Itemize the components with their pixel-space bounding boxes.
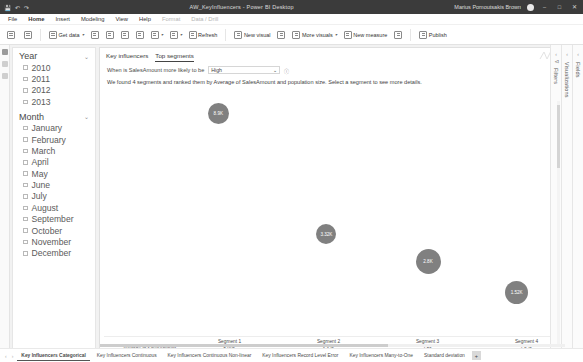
menu-item-format[interactable]: Format bbox=[162, 16, 180, 22]
page-tab-key-influencers-continuous[interactable]: Key Influencers Continuous bbox=[93, 351, 161, 361]
slicer-item-february[interactable]: February bbox=[19, 134, 91, 145]
get-data-button[interactable]: Get data▾ bbox=[48, 31, 85, 39]
checkbox-icon[interactable] bbox=[23, 100, 28, 105]
more-visuals-button[interactable]: More visuals▾ bbox=[291, 31, 337, 39]
slicer-item-december[interactable]: December bbox=[19, 248, 91, 259]
checkbox-icon[interactable] bbox=[23, 171, 28, 176]
chevron-down-icon: ⌄ bbox=[273, 67, 277, 73]
slicer-item-september[interactable]: September bbox=[19, 214, 91, 225]
checkbox-icon[interactable] bbox=[23, 88, 28, 93]
menu-item-insert[interactable]: Insert bbox=[55, 16, 70, 22]
menu-item-home[interactable]: Home bbox=[28, 16, 44, 22]
checkbox-icon[interactable] bbox=[23, 217, 28, 222]
avatar[interactable] bbox=[527, 4, 534, 11]
scroll-thumb[interactable] bbox=[100, 344, 388, 347]
checkbox-icon[interactable] bbox=[23, 183, 28, 188]
checkbox-icon[interactable] bbox=[23, 240, 28, 245]
slicer-item-2011[interactable]: 2011 bbox=[19, 73, 91, 84]
menu-item-view[interactable]: View bbox=[115, 16, 127, 22]
slicer-item-july[interactable]: July bbox=[19, 191, 91, 202]
sql-server-button[interactable] bbox=[120, 31, 130, 39]
checkbox-icon[interactable] bbox=[23, 194, 28, 199]
page-tab-key-influencers-many-to-one[interactable]: Key Influencers Many-to-One bbox=[345, 351, 417, 361]
checkbox-icon[interactable] bbox=[23, 137, 28, 142]
model-view-icon[interactable] bbox=[2, 73, 8, 79]
checkbox-icon[interactable] bbox=[23, 228, 28, 233]
menu-item-file[interactable]: File bbox=[8, 16, 17, 22]
data-view-icon[interactable] bbox=[2, 61, 8, 67]
slicer-item-august[interactable]: August bbox=[19, 202, 91, 213]
page-tab-standard-deviation[interactable]: Standard deviation bbox=[420, 351, 469, 361]
add-page-button[interactable]: + bbox=[472, 351, 481, 360]
slicer-item-2010[interactable]: 2010 bbox=[19, 62, 91, 73]
info-icon[interactable]: ⓘ bbox=[284, 67, 289, 74]
chevron-left-icon[interactable]: ‹ bbox=[566, 51, 568, 57]
page-prev-button[interactable]: ‹ bbox=[4, 353, 8, 359]
slicer-month-header[interactable]: Month ⌄ bbox=[19, 112, 91, 122]
segment-bubble-2[interactable]: 3.32K bbox=[316, 224, 336, 244]
menu-item-modeling[interactable]: Modeling bbox=[81, 16, 105, 22]
tab-top-segments[interactable]: Top segments bbox=[155, 52, 194, 62]
slicer-item-march[interactable]: March bbox=[19, 145, 91, 156]
save-icon[interactable]: 💾 bbox=[4, 4, 11, 11]
excel-source-button[interactable] bbox=[90, 31, 100, 39]
chevron-left-icon[interactable]: ‹ bbox=[577, 51, 579, 57]
scroll-thumb[interactable] bbox=[557, 105, 560, 168]
slicer-item-october[interactable]: October bbox=[19, 225, 91, 236]
slicer-visual[interactable]: Year ⌄ 2010 2011 2012 2013 Month ⌄ Janua… bbox=[12, 47, 96, 362]
new-measure-button[interactable]: New measure bbox=[343, 31, 388, 39]
checkbox-icon[interactable] bbox=[23, 65, 28, 70]
slicer-item-june[interactable]: June bbox=[19, 179, 91, 190]
chevron-down-icon[interactable]: ⌄ bbox=[84, 53, 89, 60]
checkbox-icon[interactable] bbox=[23, 160, 28, 165]
slicer-item-april[interactable]: April bbox=[19, 157, 91, 168]
maximize-button[interactable]: □ bbox=[555, 4, 564, 10]
slicer-item-november[interactable]: November bbox=[19, 236, 91, 247]
format-painter-button[interactable] bbox=[23, 31, 33, 39]
page-tab-key-influencers-record-level-error[interactable]: Key Influencers Record Level Error bbox=[258, 351, 342, 361]
minimize-button[interactable]: – bbox=[540, 4, 549, 10]
powerbi-datasets-button[interactable] bbox=[105, 31, 115, 39]
slicer-item-january[interactable]: January bbox=[19, 123, 91, 134]
analysis-type-dropdown[interactable]: High ⌄ bbox=[208, 66, 280, 74]
key-influencers-visual[interactable]: Key influencers Top segments When is Sal… bbox=[99, 47, 581, 362]
checkbox-icon[interactable] bbox=[23, 77, 28, 82]
checkbox-icon[interactable] bbox=[23, 149, 28, 154]
segment-bubble-1[interactable]: 8.9K bbox=[208, 103, 229, 124]
slicer-item-may[interactable]: May bbox=[19, 168, 91, 179]
text-box-button[interactable] bbox=[276, 31, 286, 39]
canvas-vertical-scrollbar[interactable] bbox=[557, 101, 560, 344]
refresh-button[interactable]: Refresh bbox=[188, 31, 219, 39]
checkbox-icon[interactable] bbox=[23, 251, 28, 256]
publish-button[interactable]: Publish bbox=[418, 31, 448, 39]
page-tab-key-influencers-continuous-non-linear[interactable]: Key Influencers Continuous Non-linear bbox=[164, 351, 256, 361]
chevron-down-icon[interactable]: ⌄ bbox=[84, 113, 89, 120]
menu-item-data-drill[interactable]: Data / Drill bbox=[191, 16, 218, 22]
segment-bubble-3[interactable]: 2.8K bbox=[416, 249, 441, 274]
canvas-horizontal-scrollbar[interactable] bbox=[100, 344, 565, 347]
report-view-icon[interactable] bbox=[2, 49, 8, 55]
slicer-item-2012[interactable]: 2012 bbox=[19, 85, 91, 96]
checkbox-icon[interactable] bbox=[23, 126, 28, 131]
tab-key-influencers[interactable]: Key influencers bbox=[106, 52, 148, 62]
undo-icon[interactable]: ↶ bbox=[15, 4, 20, 11]
enter-data-button[interactable] bbox=[135, 31, 145, 39]
page-tab-key-influencers-categorical[interactable]: Key Influencers Categorical bbox=[17, 351, 89, 361]
ribbon-divider bbox=[410, 29, 411, 41]
pane-fields[interactable]: ‹ Fields bbox=[572, 45, 583, 362]
recent-sources-button[interactable]: ▾ bbox=[169, 31, 183, 39]
paste-button[interactable] bbox=[6, 31, 18, 39]
slicer-item-2013[interactable]: 2013 bbox=[19, 96, 91, 107]
segment-bubble-4[interactable]: 1.52K bbox=[505, 281, 528, 304]
slicer-year-header[interactable]: Year ⌄ bbox=[19, 51, 91, 61]
pane-visualizations[interactable]: ‹ Visualizations bbox=[561, 45, 572, 362]
page-next-button[interactable]: › bbox=[11, 353, 15, 359]
account-name[interactable]: Marius Pomoutsakis Brown bbox=[454, 4, 521, 10]
chevron-left-icon[interactable]: ‹ bbox=[555, 51, 557, 57]
checkbox-icon[interactable] bbox=[23, 206, 28, 211]
dataverse-button[interactable]: ▾ bbox=[150, 31, 164, 39]
new-visual-button[interactable]: New visual bbox=[233, 31, 271, 39]
quick-measure-button[interactable] bbox=[393, 31, 403, 39]
menu-item-help[interactable]: Help bbox=[139, 16, 151, 22]
close-button[interactable]: ✕ bbox=[570, 4, 579, 10]
